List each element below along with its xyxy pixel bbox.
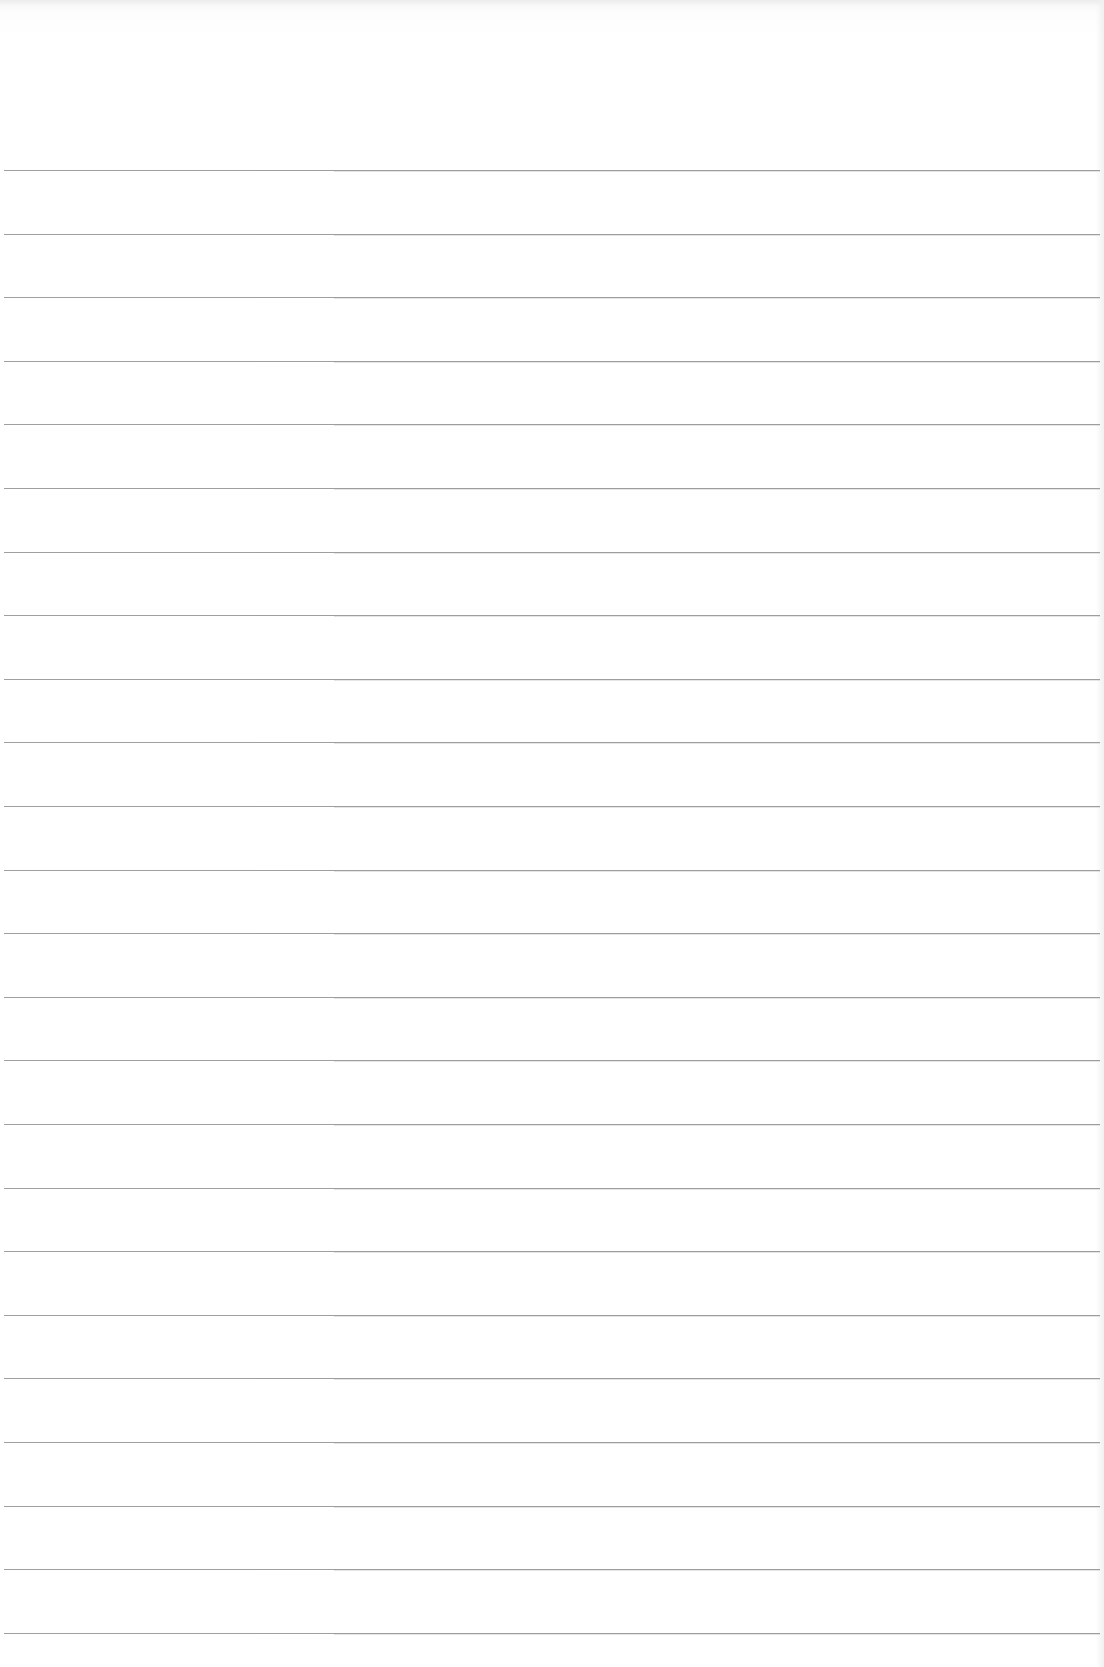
paper-top-edge: [0, 0, 1104, 6]
ruled-line: [4, 488, 1100, 489]
ruled-line: [4, 1633, 1100, 1634]
ruled-line: [4, 1124, 1100, 1125]
ruled-line: [4, 170, 1100, 171]
ruled-line: [4, 361, 1100, 362]
ruled-line: [4, 679, 1100, 680]
ruled-line: [4, 1060, 1100, 1061]
ruled-line: [4, 552, 1100, 553]
ruled-line: [4, 1442, 1100, 1443]
ruled-line: [4, 997, 1100, 998]
ruled-line: [4, 1188, 1100, 1189]
ruled-line: [4, 424, 1100, 425]
ruled-line: [4, 1251, 1100, 1252]
ruled-line: [4, 234, 1100, 235]
ruled-line: [4, 742, 1100, 743]
ruled-line: [4, 615, 1100, 616]
ruled-line: [4, 1569, 1100, 1570]
ruled-line: [4, 1378, 1100, 1379]
ruled-line: [4, 297, 1100, 298]
lined-paper-sheet: [0, 0, 1104, 1667]
paper-right-edge: [1096, 0, 1104, 1667]
ruled-line: [4, 806, 1100, 807]
ruled-line: [4, 1506, 1100, 1507]
ruled-line: [4, 1315, 1100, 1316]
ruled-line: [4, 870, 1100, 871]
ruled-line: [4, 933, 1100, 934]
